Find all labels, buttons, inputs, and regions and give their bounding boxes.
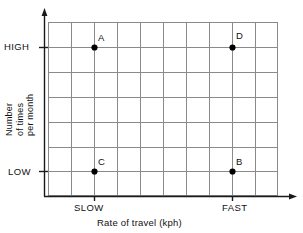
data-point-label-d: D [236,31,243,41]
y-tick-label-high: HIGH [4,42,29,52]
x-axis-arrow-icon [289,194,297,200]
y-tick-marks [39,48,48,172]
chart-canvas [0,0,303,233]
data-point-label-a: A [98,33,104,43]
scatter-chart: HIGH LOW SLOW FAST Rate of travel (kph) … [0,0,303,233]
y-axis-title-line-3: per month [25,94,36,136]
y-tick-label-low: LOW [8,167,31,177]
y-axis-title-line-1: Number [4,103,15,136]
x-tick-label-slow: SLOW [74,203,104,213]
y-axis-title: Number of times per month [0,56,40,136]
x-axis-title: Rate of travel (kph) [97,217,182,228]
data-point-b[interactable] [229,168,235,174]
data-point-label-c: C [98,157,105,167]
data-point-c[interactable] [91,168,97,174]
data-point-label-b: B [236,157,242,167]
x-tick-label-fast: FAST [222,203,247,213]
y-axis [42,8,48,197]
y-axis-arrow-icon [42,8,48,16]
data-point-a[interactable] [91,44,97,50]
data-point-d[interactable] [229,44,235,50]
y-axis-title-line-2: of times [15,103,26,136]
